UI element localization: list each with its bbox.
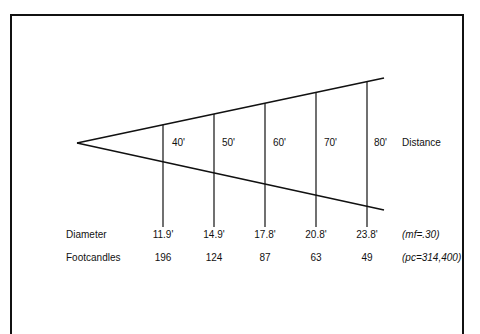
footcandles-note: (pc=314,400) <box>402 252 461 264</box>
distance-label-40: 40' <box>172 137 185 149</box>
footcandles-value-80: 49 <box>361 252 372 264</box>
distance-label-70: 70' <box>324 137 337 149</box>
footcandles-value-70: 63 <box>310 252 321 264</box>
footcandles-value-60: 87 <box>259 252 270 264</box>
beam-upper-edge <box>77 78 384 143</box>
beam-lower-edge <box>77 143 384 210</box>
distance-row-label: Distance <box>402 137 441 149</box>
footcandles-value-40: 196 <box>155 252 172 264</box>
footcandles-row-label: Footcandles <box>66 252 120 264</box>
distance-label-80: 80' <box>374 137 387 149</box>
distance-label-60: 60' <box>273 137 286 149</box>
diameter-value-40: 11.9' <box>153 229 174 241</box>
footcandles-value-50: 124 <box>206 252 223 264</box>
distance-label-50: 50' <box>222 137 235 149</box>
diameter-value-70: 20.8' <box>305 229 326 241</box>
diameter-note: (mf=.30) <box>402 229 440 241</box>
diameter-value-80: 23.8' <box>356 229 377 241</box>
diameter-value-60: 17.8' <box>254 229 275 241</box>
diameter-row-label: Diameter <box>66 229 107 241</box>
diameter-value-50: 14.9' <box>203 229 224 241</box>
